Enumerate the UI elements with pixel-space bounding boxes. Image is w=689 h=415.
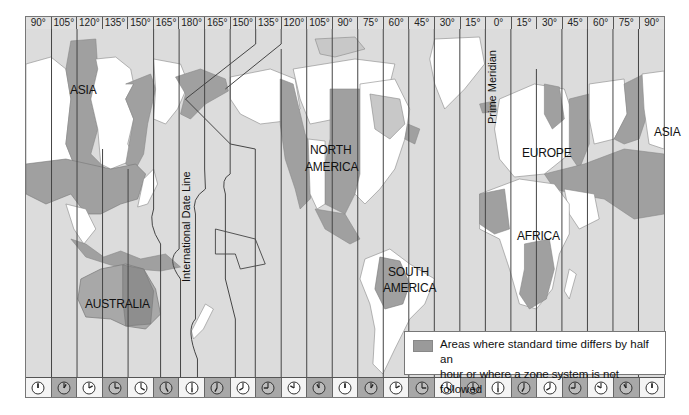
longitude-label: 15° [512, 17, 538, 29]
clock-cell [307, 378, 333, 397]
clock-cell [384, 378, 410, 397]
label-africa: AFRICA [517, 229, 560, 243]
clock-cell [205, 378, 231, 397]
map-legend: Areas where standard time differs by hal… [404, 331, 666, 375]
label-south-america-2: AMERICA [383, 281, 436, 295]
longitude-label: 30° [435, 17, 461, 29]
clock-icon [287, 381, 301, 395]
longitude-label: 90° [26, 17, 52, 29]
longitude-label: 150° [128, 17, 154, 29]
clock-icon [159, 381, 173, 395]
clock-icon [108, 381, 122, 395]
longitude-label: 180° [179, 17, 205, 29]
longitude-label: 120° [282, 17, 308, 29]
label-asia-west: ASIA [70, 83, 97, 97]
longitude-label: 150° [231, 17, 257, 29]
longitude-label: 60° [384, 17, 410, 29]
longitude-label: 120° [77, 17, 103, 29]
land-mexico [315, 209, 360, 244]
clock-icon [389, 381, 403, 395]
clock-icon [364, 381, 378, 395]
longitude-label: 75° [358, 17, 384, 29]
longitude-label: 165° [154, 17, 180, 29]
clock-cell [128, 378, 154, 397]
clock-cell [409, 378, 435, 397]
map-canvas [26, 29, 664, 379]
label-australia: AUSTRALIA [85, 297, 150, 311]
clock-cell [358, 378, 384, 397]
label-international-date-line: International Date Line [180, 171, 192, 282]
longitude-label: 105° [52, 17, 78, 29]
longitude-label: 75° [614, 17, 640, 29]
land-newfoundland [405, 124, 420, 144]
longitude-label: 135° [103, 17, 129, 29]
longitude-label: 45° [563, 17, 589, 29]
label-europe: EUROPE [522, 146, 571, 160]
clock-cell [179, 378, 205, 397]
longitude-label: 90° [640, 17, 665, 29]
clock-cell [103, 378, 129, 397]
longitude-label: 15° [461, 17, 487, 29]
land-africa-west-dark [480, 189, 510, 234]
legend-text-line1: Areas where standard time differs by hal… [440, 337, 659, 367]
longitude-label: 105° [307, 17, 333, 29]
longitude-header: 90°105°120°135°150°165°180°165°150°135°1… [26, 17, 664, 29]
longitude-label: 135° [256, 17, 282, 29]
clock-icon [82, 381, 96, 395]
clock-cell [26, 378, 52, 397]
clock-cell [52, 378, 78, 397]
label-prime-meridian: Prime Meridian [486, 50, 498, 124]
label-south-america-1: SOUTH [388, 265, 429, 279]
land-greenland [430, 37, 485, 109]
clock-cell [256, 378, 282, 397]
clock-cell [282, 378, 308, 397]
clock-icon [236, 381, 250, 395]
clock-icon [415, 381, 429, 395]
longitude-label: 90° [333, 17, 359, 29]
clock-cell [333, 378, 359, 397]
clock-icon [338, 381, 352, 395]
label-asia-east: ASIA [654, 125, 681, 139]
clock-icon [57, 381, 71, 395]
clock-icon [312, 381, 326, 395]
label-north-america-2: AMERICA [305, 160, 358, 174]
label-north-america-1: NORTH [310, 143, 351, 157]
legend-text-line2: hour or where a zone system is not follo… [440, 367, 659, 397]
clock-cell [231, 378, 257, 397]
clock-icon [185, 381, 199, 395]
land-madagascar [564, 269, 576, 299]
clock-icon [261, 381, 275, 395]
legend-swatch [413, 340, 433, 352]
land-new-zealand [191, 304, 213, 339]
longitude-label: 165° [205, 17, 231, 29]
clock-icon [134, 381, 148, 395]
longitude-label: 30° [537, 17, 563, 29]
clock-cell [154, 378, 180, 397]
longitude-label: 60° [588, 17, 614, 29]
land-russia-west-dark [569, 94, 589, 169]
clock-icon [31, 381, 45, 395]
longitude-label: 0° [486, 17, 512, 29]
land-australia-central-dark [123, 265, 154, 326]
clock-cell [77, 378, 103, 397]
clock-icon [210, 381, 224, 395]
longitude-label: 45° [409, 17, 435, 29]
